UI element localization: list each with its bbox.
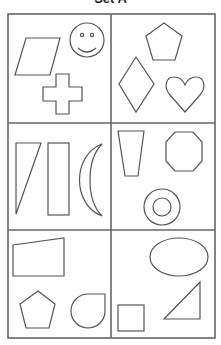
parallelogram-icon [15,38,60,75]
smiley-face-icon [70,23,104,57]
rectangle-icon [48,143,69,215]
quadrilateral-icon [13,238,64,276]
octagon-icon [166,132,202,171]
cell-row3-right [118,238,208,331]
grid-frame [8,14,215,338]
cell-row2-left [16,143,102,216]
crescent-icon [80,144,103,216]
pentagon-icon [146,23,182,60]
pentagon-icon [20,291,55,328]
ring-icon [144,189,180,225]
rhombus-icon [119,57,154,112]
cell-row1-left [15,23,104,114]
shape-grid [0,0,221,345]
right-triangle-icon [164,282,200,319]
ellipse-icon [150,238,208,276]
square-icon [118,305,144,331]
cell-row2-right [118,131,202,225]
cross-icon [43,74,82,114]
heart-icon [166,77,204,112]
cell-row1-right [119,23,204,112]
cell-row3-left [13,238,105,328]
right-triangle-icon [16,143,41,214]
trapezoid-icon [118,131,144,176]
teardrop-icon [71,294,105,328]
